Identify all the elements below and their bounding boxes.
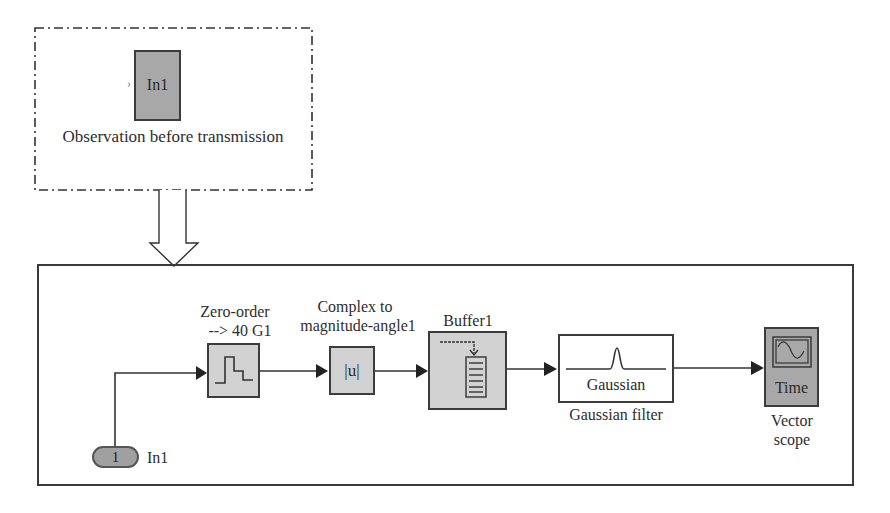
- inport-label: In1: [147, 448, 168, 467]
- observation-caption: Observation before transmission: [48, 127, 298, 146]
- zoh-title-2: --> 40 G1: [195, 321, 285, 340]
- gaussian-caption: Gaussian filter: [555, 405, 677, 424]
- inport-number: 1: [112, 449, 120, 465]
- zero-order-hold-block[interactable]: [207, 343, 260, 398]
- abs-symbol: |u|: [331, 361, 373, 381]
- buffer-icon: [430, 333, 505, 408]
- scope-caption-1: Vector: [757, 411, 827, 430]
- buffer-block[interactable]: [428, 331, 507, 410]
- inport-block[interactable]: 1: [92, 446, 139, 468]
- in1-block-label: In1: [136, 76, 179, 94]
- staircase-icon: [209, 345, 258, 396]
- buffer-title: Buffer1: [430, 311, 506, 330]
- complex-to-magnitude-block[interactable]: |u|: [329, 346, 375, 395]
- abs-title-1: Complex to: [300, 297, 410, 316]
- hollow-down-arrow: [150, 190, 198, 266]
- abs-title-2: magnitude-angle1: [288, 316, 428, 335]
- gaussian-pulse-icon: [560, 336, 672, 376]
- vector-scope-block[interactable]: Time: [764, 327, 819, 407]
- input-port-marker-icon: ›: [127, 76, 131, 91]
- scope-caption-2: scope: [757, 430, 827, 449]
- gaussian-label: Gaussian: [560, 376, 672, 394]
- scope-time-label: Time: [766, 379, 817, 397]
- in1-block-top[interactable]: In1: [134, 50, 181, 121]
- zoh-title-1: Zero-order: [180, 302, 290, 321]
- scope-icon: [766, 329, 817, 373]
- gaussian-filter-block[interactable]: Gaussian: [558, 334, 674, 403]
